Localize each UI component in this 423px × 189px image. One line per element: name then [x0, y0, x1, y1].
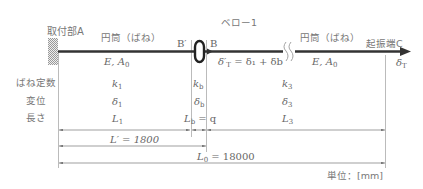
row-label-spring-constant: ばね定数: [16, 77, 56, 89]
kb: kb: [193, 78, 204, 93]
cylinder-left-label: 円筒（ばね）: [101, 32, 161, 44]
delta-t-prime-eq: δ′T = δ₁ + δb: [218, 56, 283, 71]
mount-wall-hatch: [48, 38, 58, 65]
l0-dimension: L0 = 18000: [197, 151, 255, 166]
break-mark: [284, 42, 288, 61]
delta-t-label: δT: [396, 57, 407, 72]
delta-b: δb: [194, 96, 205, 111]
b-label: B: [210, 38, 217, 50]
unit-label: 単位：[mm]: [327, 170, 383, 182]
tip-label: 起振端C: [366, 38, 403, 50]
delta1: δ1: [112, 96, 123, 111]
bellows-title: ベロー1: [221, 17, 257, 29]
delta3: δ3: [282, 96, 293, 111]
cylinder-right-label: 円筒（ばね）: [300, 32, 360, 44]
k3: k3: [282, 78, 293, 93]
l-prime-dimension: L′ = 1800: [110, 134, 159, 146]
k1: k1: [112, 78, 123, 93]
b-prime-label: B′: [177, 38, 187, 50]
l1: L1: [112, 113, 123, 128]
bellows-shape: [195, 41, 204, 62]
mount-label: 取付部A: [47, 26, 84, 38]
row-label-displacement: 変位: [26, 95, 46, 107]
l3: L3: [282, 113, 293, 128]
prop-right: E, A0: [312, 56, 337, 71]
row-label-length: 長さ: [26, 112, 46, 124]
lb-eq-q: Lb = q: [184, 113, 216, 128]
prop-left: E, A0: [104, 56, 129, 71]
